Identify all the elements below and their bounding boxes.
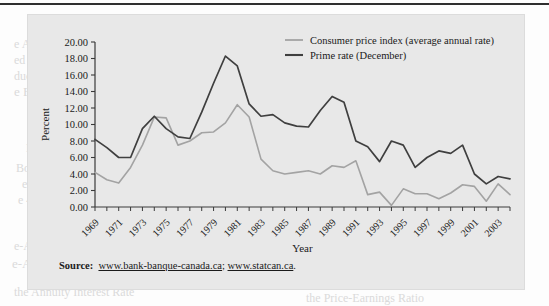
x-axis-tick-label: 1979 xyxy=(198,217,220,239)
x-axis-tick-label: 1969 xyxy=(79,217,101,239)
x-axis-tick-label: 1993 xyxy=(364,217,386,239)
x-axis-tick-label: 1985 xyxy=(269,217,291,239)
series-line-prime-rate xyxy=(95,56,510,184)
x-axis-tick-label: 1991 xyxy=(340,217,362,239)
x-axis-tick-label: 1977 xyxy=(174,217,196,239)
x-axis-tick-label: 1997 xyxy=(411,217,433,239)
x-axis-tick-label: 1989 xyxy=(316,217,338,239)
legend-label-prime-rate: Prime rate (December) xyxy=(310,50,407,62)
chart-plot-area: 0.002.004.006.008.0010.0012.0014.0016.00… xyxy=(27,14,525,254)
x-axis-tick-label: 1987 xyxy=(292,217,314,239)
x-axis-tick-label: 1973 xyxy=(126,217,148,239)
y-axis-tick-label: 2.00 xyxy=(70,185,88,196)
legend-label-cpi: Consumer price index (average annual rat… xyxy=(310,35,494,47)
x-axis-tick-label: 1983 xyxy=(245,217,267,239)
ghost-text-line: the Price-Earnings Ratio xyxy=(306,290,424,306)
x-axis-tick-label: 1975 xyxy=(150,217,172,239)
source-period: . xyxy=(293,260,296,271)
x-axis-tick-label: 1999 xyxy=(435,217,457,239)
y-axis-tick-label: 14.00 xyxy=(64,86,88,97)
page-top-rule xyxy=(0,3,549,5)
y-axis-tick-label: 0.00 xyxy=(70,202,88,213)
figure-screenshot: Compound Valuee Analysis 438ed 440 Colle… xyxy=(0,0,549,306)
source-note: Source: www.bank-banque-canada.ca; www.s… xyxy=(59,260,296,271)
y-axis-tick-label: 8.00 xyxy=(70,136,88,147)
x-axis-tick-label: 2003 xyxy=(482,217,504,239)
figure-panel: 0.002.004.006.008.0010.0012.0014.0016.00… xyxy=(27,14,525,290)
x-axis-tick-label: 2001 xyxy=(458,217,480,239)
source-link-statcan[interactable]: www.statcan.ca xyxy=(228,260,294,271)
x-axis-title: Year xyxy=(292,242,313,254)
line-chart: 0.002.004.006.008.0010.0012.0014.0016.00… xyxy=(27,14,525,254)
y-axis-tick-label: 12.00 xyxy=(64,103,88,114)
y-axis-tick-label: 6.00 xyxy=(70,152,88,163)
y-axis-tick-label: 18.00 xyxy=(64,53,88,64)
x-axis-tick-label: 1995 xyxy=(387,217,409,239)
y-axis-tick-label: 20.00 xyxy=(64,37,88,48)
x-axis-tick-label: 1981 xyxy=(221,217,243,239)
source-label: Source: xyxy=(59,260,93,271)
y-axis-title: Percent xyxy=(39,108,51,141)
y-axis-tick-label: 4.00 xyxy=(70,169,88,180)
x-axis-tick-label: 1971 xyxy=(103,217,125,239)
y-axis-tick-label: 16.00 xyxy=(64,70,88,81)
source-link-bank-of-canada[interactable]: www.bank-banque-canada.ca xyxy=(98,260,222,271)
y-axis-tick-label: 10.00 xyxy=(64,119,88,130)
